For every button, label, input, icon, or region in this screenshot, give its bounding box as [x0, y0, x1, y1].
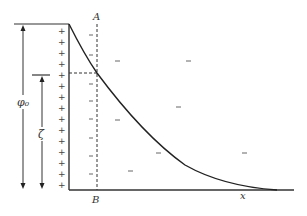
- svg-text:+: +: [58, 70, 66, 80]
- svg-text:+: +: [58, 26, 66, 36]
- surface-charges: + + + + + + + + + + + + + + +: [58, 26, 66, 190]
- svg-text:+: +: [58, 81, 66, 91]
- svg-text:+: +: [58, 114, 66, 124]
- svg-text:+: +: [58, 136, 66, 146]
- svg-text:+: +: [58, 103, 66, 113]
- label-x: x: [240, 190, 246, 201]
- svg-text:+: +: [58, 125, 66, 135]
- svg-text:+: +: [58, 147, 66, 157]
- label-A: A: [92, 11, 100, 22]
- svg-text:+: +: [58, 169, 66, 179]
- label-B: B: [91, 194, 99, 205]
- svg-text:+: +: [58, 48, 66, 58]
- phi0-label: φ₀: [17, 96, 30, 109]
- double-layer-diagram: φ₀ ζ + + + + + + + + + + + + + + + A B x: [0, 0, 307, 216]
- svg-text:+: +: [58, 59, 66, 69]
- svg-text:+: +: [58, 92, 66, 102]
- stern-layer-charges: [89, 35, 93, 174]
- diffuse-layer-charges: [115, 61, 247, 171]
- potential-curve: [69, 24, 277, 190]
- svg-text:+: +: [58, 37, 66, 47]
- svg-text:+: +: [58, 180, 66, 190]
- svg-text:+: +: [58, 158, 66, 168]
- zeta-label: ζ: [38, 128, 45, 141]
